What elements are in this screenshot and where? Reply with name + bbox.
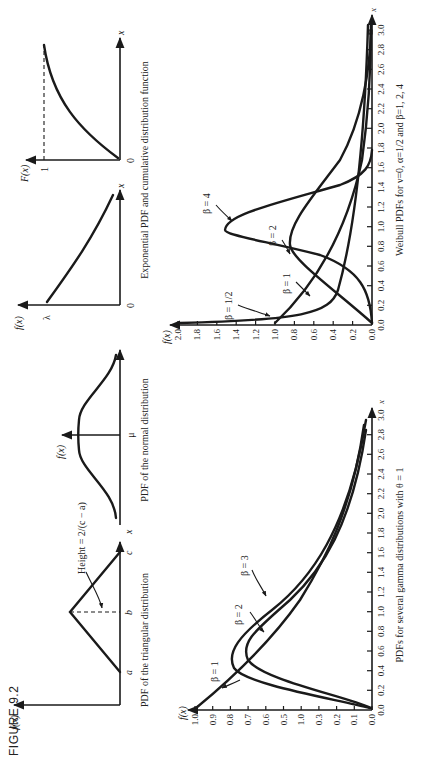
svg-text:0.4: 0.4	[376, 280, 386, 292]
svg-text:0.2: 0.2	[332, 714, 342, 725]
normal-mu: μ	[125, 432, 136, 437]
svg-text:1.6: 1.6	[376, 547, 386, 559]
exp-pdf-origin: 0	[125, 303, 136, 308]
svg-text:1.0: 1.0	[376, 606, 386, 618]
svg-text:2.2: 2.2	[376, 103, 386, 114]
svg-text:0.2: 0.2	[376, 300, 386, 311]
exp-cdf-ylabel: F(x)	[19, 164, 31, 183]
svg-text:0.7: 0.7	[243, 714, 253, 726]
svg-text:0.4: 0.4	[328, 329, 338, 341]
weibull-ylabel: f(x)	[161, 329, 173, 344]
svg-text:2.2: 2.2	[376, 488, 386, 499]
svg-text:2.0: 2.0	[376, 507, 386, 519]
svg-text:2.4: 2.4	[376, 468, 386, 480]
svg-text:2.4: 2.4	[376, 83, 386, 95]
exp-pdf-ylabel: f(x)	[13, 315, 25, 330]
svg-text:0.8: 0.8	[289, 329, 299, 341]
svg-text:2.8: 2.8	[376, 44, 386, 56]
svg-text:1.8: 1.8	[376, 142, 386, 154]
svg-text:2.8: 2.8	[376, 429, 386, 441]
weibull-legend-beta-4: β = 4	[201, 193, 212, 214]
gamma-legend-beta-3: β = 3	[239, 555, 250, 576]
svg-text:3.0: 3.0	[376, 409, 386, 421]
svg-text:1.4: 1.4	[231, 329, 241, 341]
gamma-ylabel: f(x)	[177, 705, 189, 720]
svg-text:0.5: 0.5	[279, 714, 289, 726]
svg-text:1.0: 1.0	[376, 221, 386, 233]
svg-text:0.6: 0.6	[376, 260, 386, 272]
svg-text:0.3: 0.3	[314, 714, 324, 726]
height-annotation: Height = 2/(c − a)	[76, 502, 88, 574]
exponential-pdf-panel: f(x) λ 0 x	[13, 183, 136, 330]
weibull-legend-beta-half: β = 1/2	[223, 291, 234, 320]
gamma-legend-beta-2: β = 2	[233, 604, 244, 625]
svg-text:0.6: 0.6	[261, 714, 271, 726]
svg-text:0.6: 0.6	[309, 329, 319, 341]
svg-text:2.0: 2.0	[376, 122, 386, 134]
svg-text:0.8: 0.8	[376, 240, 386, 252]
gamma-panel: 0.0 0.1 0.2 0.3 1.0 0.5 0.6 0.7 0.8 0.9 …	[177, 400, 405, 725]
exp-cdf-curve	[44, 45, 118, 158]
svg-text:0.1: 0.1	[349, 714, 359, 725]
exp-pdf-curve	[47, 195, 113, 302]
weibull-legend-beta-2: β = 2	[267, 225, 278, 246]
svg-text:1.2: 1.2	[376, 201, 386, 212]
point-c: c	[123, 550, 134, 555]
gamma-caption: PDFs for several gamma distributions wit…	[394, 468, 405, 663]
gamma-curve-beta-1	[196, 425, 364, 708]
point-a: a	[123, 670, 134, 675]
gamma-legend-arrow-3	[252, 570, 266, 596]
figure-page: FIGURE 9.2 f(x) Height = 2/(c − a) a b c…	[0, 0, 431, 760]
svg-text:1.0: 1.0	[270, 329, 280, 341]
svg-text:1.2: 1.2	[376, 586, 386, 597]
svg-text:1.0: 1.0	[296, 714, 306, 726]
svg-text:0.2: 0.2	[348, 329, 358, 340]
weibull-legend-arrow-half	[238, 305, 270, 316]
svg-text:0.0: 0.0	[376, 319, 386, 331]
exp-cdf-xlabel: x	[115, 30, 126, 36]
svg-text:1.4: 1.4	[376, 566, 386, 578]
svg-text:0.9: 0.9	[208, 714, 218, 726]
svg-text:2.6: 2.6	[376, 448, 386, 460]
svg-text:0.8: 0.8	[225, 714, 235, 726]
weibull-x-tick-labels: 0.0 0.2 0.4 0.6 0.8 1.0 1.2 1.4 1.6 1.8 …	[376, 24, 386, 331]
weibull-xlabel: x	[368, 8, 378, 13]
exp-cdf-one: 1	[39, 167, 50, 172]
svg-text:0.0: 0.0	[376, 704, 386, 716]
gamma-legend-beta-1: β = 1	[209, 661, 220, 682]
normal-ylabel: f(x)	[55, 444, 67, 459]
point-b: b	[123, 610, 134, 615]
exponential-caption: Exponential PDF and cumulative distribut…	[139, 61, 150, 278]
triangular-ylabel: f(x)	[8, 714, 21, 730]
triangular-caption: PDF of the triangular distribution	[139, 573, 150, 707]
triangular-panel: f(x) Height = 2/(c − a) a b c x PDF of t…	[8, 502, 150, 730]
svg-text:1.4: 1.4	[376, 181, 386, 193]
svg-text:0.8: 0.8	[376, 625, 386, 637]
svg-text:0.4: 0.4	[376, 665, 386, 677]
gamma-curve-beta-3	[246, 430, 371, 708]
exponential-cdf-panel: F(x) 1 0 x Exponential PDF and cumulativ…	[19, 30, 150, 279]
weibull-legend-beta-1: β = 1	[281, 273, 292, 294]
svg-text:1.8: 1.8	[192, 329, 202, 341]
exp-pdf-xlabel: x	[115, 183, 126, 189]
triangular-xlabel: x	[123, 529, 134, 535]
svg-text:0.6: 0.6	[376, 645, 386, 657]
gamma-y-tick-labels: 0.0 0.1 0.2 0.3 1.0 0.5 0.6 0.7 0.8 0.9 …	[190, 714, 377, 726]
svg-text:2.0: 2.0	[173, 329, 183, 341]
weibull-curve-beta-2	[290, 30, 372, 323]
gamma-x-tick-labels: 0.0 0.2 0.4 0.6 0.8 1.0 1.2 1.4 1.6 1.8 …	[376, 409, 386, 716]
weibull-y-tick-labels: 0.0 0.2 0.4 0.6 0.8 1.0 1.2 1.4 1.6 1.8 …	[173, 329, 377, 341]
svg-text:1.8: 1.8	[376, 527, 386, 539]
svg-text:0.2: 0.2	[376, 685, 386, 696]
exp-cdf-origin: 0	[125, 158, 136, 163]
svg-text:1.6: 1.6	[212, 329, 222, 341]
svg-text:1.2: 1.2	[251, 329, 261, 340]
normal-panel: f(x) μ PDF of the normal distribution	[55, 350, 150, 525]
normal-curve	[78, 355, 116, 518]
svg-text:1.6: 1.6	[376, 162, 386, 174]
svg-text:1.0: 1.0	[190, 714, 200, 726]
exp-pdf-lambda: λ	[41, 315, 52, 320]
weibull-curve-beta-half	[180, 25, 368, 323]
svg-text:3.0: 3.0	[376, 24, 386, 36]
weibull-panel: 0.0 0.2 0.4 0.6 0.8 1.0 1.2 1.4 1.6 1.8 …	[161, 8, 405, 344]
